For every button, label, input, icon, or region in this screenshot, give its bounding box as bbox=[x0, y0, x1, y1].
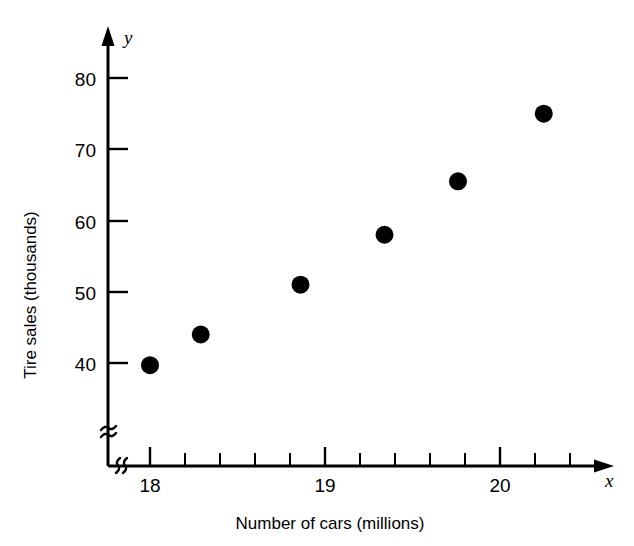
y-tick-label-80: 80 bbox=[75, 69, 96, 90]
y-axis bbox=[101, 26, 116, 466]
x-axis-tick-labels: 18 19 20 bbox=[139, 475, 510, 496]
scatter-plot-figure: 80 70 60 50 40 y Tire sales (thousands) bbox=[0, 0, 634, 546]
plot-canvas: 80 70 60 50 40 y Tire sales (thousands) bbox=[0, 0, 634, 546]
y-tick-label-70: 70 bbox=[75, 140, 96, 161]
x-tick-label-20: 20 bbox=[489, 475, 510, 496]
x-axis-title: Number of cars (millions) bbox=[236, 514, 425, 533]
x-tick-label-19: 19 bbox=[314, 475, 335, 496]
scatter-series bbox=[141, 105, 553, 375]
y-tick-label-60: 60 bbox=[75, 212, 96, 233]
y-axis-tick-labels: 80 70 60 50 40 bbox=[75, 69, 96, 375]
data-point bbox=[292, 276, 310, 294]
x-axis-variable-symbol: x bbox=[604, 470, 614, 491]
y-axis-title: Tire sales (thousands) bbox=[21, 211, 40, 379]
y-axis-variable-symbol: y bbox=[122, 27, 133, 48]
data-point bbox=[141, 356, 159, 374]
x-axis-minor-ticks bbox=[185, 453, 570, 466]
y-axis-ticks bbox=[108, 78, 128, 363]
x-axis-major-ticks bbox=[150, 447, 500, 466]
y-tick-label-40: 40 bbox=[75, 354, 96, 375]
data-point bbox=[449, 172, 467, 190]
y-tick-label-50: 50 bbox=[75, 283, 96, 304]
data-point bbox=[192, 326, 210, 344]
data-point bbox=[535, 105, 553, 123]
y-axis-arrowhead bbox=[102, 26, 115, 46]
x-tick-label-18: 18 bbox=[139, 475, 160, 496]
data-point bbox=[376, 226, 394, 244]
